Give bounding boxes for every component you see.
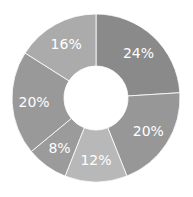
slice-label: 20%: [133, 123, 164, 139]
donut-chart: 24%20%12%8%20%16%: [0, 0, 193, 197]
slice-label: 8%: [48, 140, 70, 156]
slice-label: 12%: [80, 152, 111, 168]
slice-label: 24%: [123, 45, 154, 61]
slice-label: 20%: [19, 94, 50, 110]
slice-label: 16%: [51, 36, 82, 52]
